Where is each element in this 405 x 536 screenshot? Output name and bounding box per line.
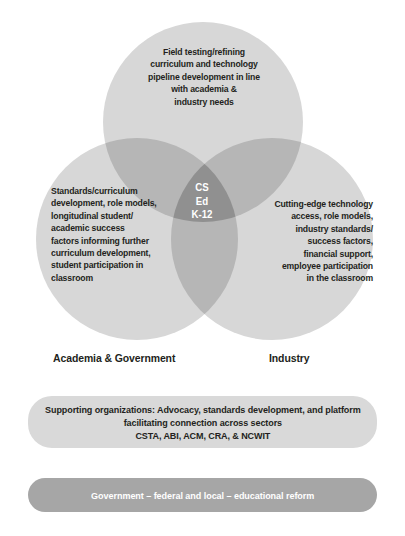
caption-industry: Industry — [269, 352, 309, 364]
supporting-organizations-text: Supporting organizations: Advocacy, stan… — [45, 403, 361, 442]
venn-diagram: Field testing/refining curriculum and te… — [0, 0, 405, 536]
supporting-organizations-band: Supporting organizations: Advocacy, stan… — [28, 396, 377, 448]
intersection-label-cs-ed-k12: CS Ed K-12 — [180, 181, 224, 222]
left-circle-text: Standards/curriculum development, role m… — [51, 185, 181, 284]
government-reform-text: Government – federal and local – educati… — [91, 489, 314, 502]
top-circle-text: Field testing/refining curriculum and te… — [131, 46, 276, 108]
caption-academia-government: Academia & Government — [53, 352, 175, 364]
right-circle-text: Cutting-edge technology access, role mod… — [252, 198, 373, 285]
government-reform-band: Government – federal and local – educati… — [28, 478, 377, 512]
